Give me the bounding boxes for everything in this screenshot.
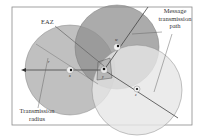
message-path-label-line1: Message (155, 8, 195, 15)
node-x-label: x (69, 74, 71, 78)
eaz-label: EAZ (41, 19, 54, 26)
diagram-canvas: EAZ Message transmission path Transmissi… (0, 0, 204, 136)
message-path-label: Message transmission path (155, 8, 195, 30)
node-w-dot (117, 45, 119, 47)
node-z-label: z (135, 93, 137, 97)
node-z-dot (136, 88, 138, 90)
node-w-label: w (115, 38, 118, 42)
node-x-dot (70, 69, 72, 71)
node-w-halo (114, 44, 121, 51)
transmission-radius-label-line2: radius (14, 116, 60, 123)
transmission-radius-label-line1: Transmission (14, 108, 60, 115)
node-y-label: y (102, 75, 104, 79)
transmission-radius-label: Transmission radius (14, 108, 60, 122)
node-y-dot (103, 68, 106, 71)
radius-r-label: r (48, 60, 50, 64)
message-path-label-line3: path (155, 23, 195, 30)
